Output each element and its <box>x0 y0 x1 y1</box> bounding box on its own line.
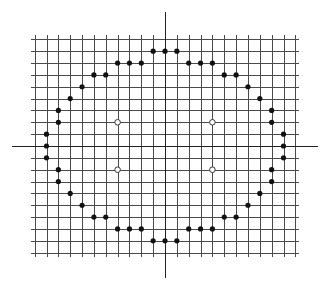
filled-point <box>44 155 49 160</box>
filled-point <box>115 60 120 65</box>
filled-point <box>162 49 167 54</box>
filled-point <box>56 120 61 125</box>
filled-point <box>91 215 96 220</box>
filled-point <box>79 84 84 89</box>
filled-point <box>79 203 84 208</box>
filled-point <box>222 215 227 220</box>
filled-point <box>44 143 49 148</box>
filled-point <box>234 215 239 220</box>
filled-point <box>186 226 191 231</box>
filled-point <box>234 72 239 77</box>
filled-point <box>103 72 108 77</box>
filled-point <box>56 108 61 113</box>
filled-point <box>210 60 215 65</box>
filled-point <box>91 72 96 77</box>
filled-point <box>281 143 286 148</box>
filled-point <box>210 226 215 231</box>
filled-point <box>56 179 61 184</box>
filled-point <box>139 226 144 231</box>
filled-point <box>151 49 156 54</box>
filled-point <box>162 238 167 243</box>
open-point <box>210 120 216 126</box>
filled-point <box>174 49 179 54</box>
filled-point <box>222 72 227 77</box>
filled-point <box>281 132 286 137</box>
filled-point <box>269 167 274 172</box>
open-point <box>210 167 216 173</box>
filled-point <box>257 96 262 101</box>
filled-point <box>56 167 61 172</box>
filled-point <box>257 191 262 196</box>
filled-point <box>151 238 156 243</box>
filled-point <box>186 60 191 65</box>
filled-point <box>127 226 132 231</box>
open-point <box>115 167 121 173</box>
filled-point <box>198 226 203 231</box>
open-point <box>115 120 121 126</box>
filled-point <box>174 238 179 243</box>
filled-point <box>115 226 120 231</box>
filled-point <box>245 84 250 89</box>
filled-point <box>269 179 274 184</box>
filled-point <box>68 191 73 196</box>
filled-point <box>127 60 132 65</box>
filled-point <box>103 215 108 220</box>
filled-point <box>44 132 49 137</box>
filled-point <box>68 96 73 101</box>
filled-point <box>269 108 274 113</box>
filled-point <box>198 60 203 65</box>
filled-point <box>245 203 250 208</box>
lattice-diagram <box>0 0 331 289</box>
filled-point <box>139 60 144 65</box>
filled-point <box>281 155 286 160</box>
filled-point <box>269 120 274 125</box>
